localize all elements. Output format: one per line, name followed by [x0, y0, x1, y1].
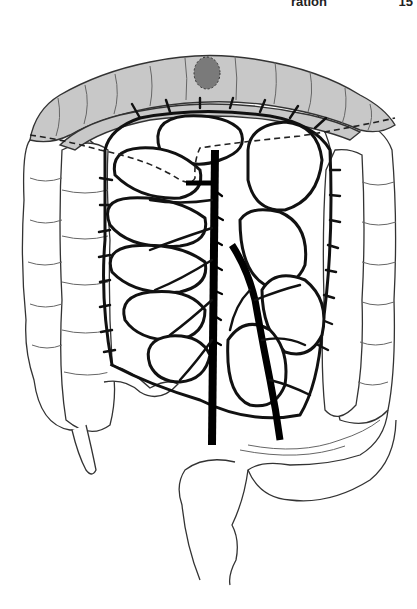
tumor-lesion	[194, 57, 220, 89]
colon-diagram	[0, 0, 417, 609]
